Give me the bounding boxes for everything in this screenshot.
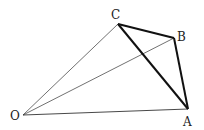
segment-OC [23,24,118,115]
segment-CB [118,24,174,38]
segment-OA [23,109,188,115]
label-B: B [177,30,186,44]
label-O: O [10,109,20,123]
label-A: A [182,115,192,129]
segment-BA [174,38,188,109]
geometry-diagram: C B O A [0,0,204,130]
label-C: C [111,8,120,22]
segment-OB [23,38,174,115]
